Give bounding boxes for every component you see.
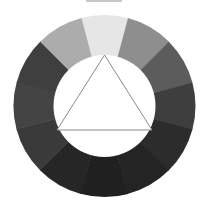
color-wheel — [0, 0, 208, 202]
